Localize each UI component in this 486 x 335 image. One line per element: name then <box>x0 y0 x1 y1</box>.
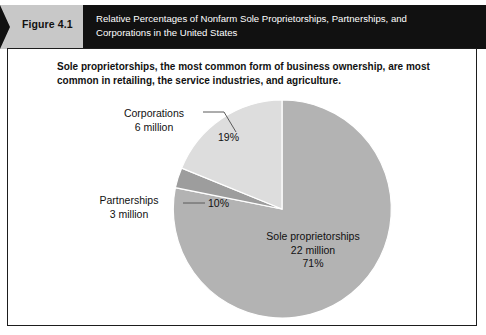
figure-title-line-1: Relative Percentages of Nonfarm Sole Pro… <box>96 12 466 26</box>
callout-corporations: Corporations 6 million <box>107 107 201 134</box>
figure-header-banner: Figure 4.1 Relative Percentages of Nonfa… <box>0 5 486 49</box>
figure-subtitle-line-2: common in retailing, the service industr… <box>57 74 447 88</box>
callout-corporations-name: Corporations <box>107 107 201 121</box>
slice-percent-partnerships: 10% <box>208 197 229 209</box>
callout-sole-value: 22 million <box>243 244 383 258</box>
figure-content-frame <box>7 48 477 326</box>
figure-title-line-2: Corporations in the United States <box>96 26 466 40</box>
callout-sole-proprietorships: Sole proprietorships 22 million 71% <box>243 230 383 271</box>
figure-title: Relative Percentages of Nonfarm Sole Pro… <box>96 12 466 40</box>
callout-partnerships: Partnerships 3 million <box>77 194 181 221</box>
callout-sole-percent: 71% <box>243 257 383 271</box>
figure-subtitle: Sole proprietorships, the most common fo… <box>57 60 447 88</box>
slice-percent-corporations: 19% <box>218 131 239 143</box>
callout-corporations-value: 6 million <box>107 121 201 135</box>
figure-number-label: Figure 4.1 <box>22 18 73 30</box>
callout-partnerships-value: 3 million <box>77 208 181 222</box>
figure-subtitle-line-1: Sole proprietorships, the most common fo… <box>57 60 447 74</box>
callout-partnerships-name: Partnerships <box>77 194 181 208</box>
callout-sole-name: Sole proprietorships <box>243 230 383 244</box>
figure-container: Figure 4.1 Relative Percentages of Nonfa… <box>0 0 486 335</box>
